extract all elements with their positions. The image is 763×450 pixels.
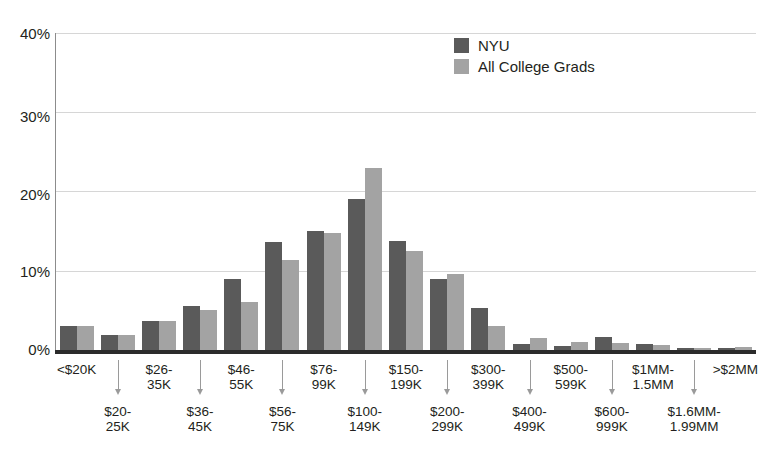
bar — [488, 326, 505, 350]
income-distribution-bar-chart: 40% 30% 20% 10% 0% NYU All College Grads… — [0, 0, 763, 450]
x-axis-labels: <$20K$20- 25K$26- 35K$36- 45K$46- 55K$56… — [56, 356, 756, 450]
x-axis-label: $100- 149K — [329, 404, 401, 434]
bar — [430, 279, 447, 350]
y-tick-20: 20% — [4, 187, 50, 202]
x-axis-line — [55, 350, 756, 354]
bar-group — [468, 33, 509, 350]
bar-group — [385, 33, 426, 350]
bar — [142, 321, 159, 350]
x-axis-label: $600- 999K — [576, 404, 648, 434]
x-axis-connector-arrow-icon — [282, 360, 283, 390]
bar — [307, 231, 324, 350]
x-axis-label: $26- 35K — [123, 362, 195, 392]
x-axis-label: $150- 199K — [370, 362, 442, 392]
x-axis-connector-arrow-icon — [365, 360, 366, 390]
bar — [554, 346, 571, 350]
x-axis-connector-arrow-icon — [447, 360, 448, 390]
bar — [241, 302, 258, 350]
bar-group — [180, 33, 221, 350]
bar — [101, 335, 118, 350]
bar-group — [591, 33, 632, 350]
bar — [735, 347, 752, 350]
bar-group — [303, 33, 344, 350]
x-axis-label: $1.6MM- 1.99MM — [658, 404, 730, 434]
legend-item-all-college-grads: All College Grads — [454, 59, 595, 74]
x-axis-label: >$2MM — [699, 362, 763, 377]
x-axis-connector-arrow-icon — [694, 360, 695, 390]
bar — [571, 342, 588, 350]
bar — [612, 343, 629, 350]
x-axis-label: $400- 499K — [494, 404, 566, 434]
x-axis-label: $500- 599K — [535, 362, 607, 392]
bar — [530, 338, 547, 350]
x-axis-label: $1MM- 1.5MM — [617, 362, 689, 392]
bar — [595, 337, 612, 350]
bar-group — [632, 33, 673, 350]
bar — [282, 260, 299, 350]
x-axis-label: <$20K — [41, 362, 113, 377]
x-axis-connector-arrow-icon — [612, 360, 613, 390]
bar — [265, 242, 282, 350]
bar — [60, 326, 77, 350]
bar — [447, 274, 464, 350]
bar-group — [550, 33, 591, 350]
bar — [118, 335, 135, 350]
bar-group — [674, 33, 715, 350]
bar — [718, 348, 735, 350]
bar — [389, 241, 406, 350]
bar-group — [138, 33, 179, 350]
y-tick-40: 40% — [4, 26, 50, 41]
bar-group — [715, 33, 756, 350]
bar-group — [221, 33, 262, 350]
bar — [77, 326, 94, 350]
y-tick-0: 0% — [4, 342, 50, 357]
bar — [224, 279, 241, 350]
bar — [653, 345, 670, 350]
x-axis-connector-arrow-icon — [530, 360, 531, 390]
bar — [365, 168, 382, 350]
x-axis-label: $56- 75K — [246, 404, 318, 434]
bar — [183, 306, 200, 350]
bar — [513, 344, 530, 350]
legend-label-nyu: NYU — [478, 38, 510, 53]
x-axis-connector-arrow-icon — [200, 360, 201, 390]
bar-group — [97, 33, 138, 350]
bar — [348, 199, 365, 350]
bar — [677, 348, 694, 350]
legend-swatch-nyu-icon — [454, 38, 469, 53]
chart-legend: NYU All College Grads — [454, 38, 595, 74]
bar — [694, 348, 711, 350]
bar — [636, 344, 653, 350]
y-tick-30: 30% — [4, 109, 50, 124]
bar-group — [56, 33, 97, 350]
x-axis-label: $36- 45K — [164, 404, 236, 434]
bar — [159, 321, 176, 350]
y-tick-10: 10% — [4, 264, 50, 279]
bar-group — [344, 33, 385, 350]
x-axis-label: $76- 99K — [288, 362, 360, 392]
legend-item-nyu: NYU — [454, 38, 595, 53]
bar-group — [262, 33, 303, 350]
legend-swatch-all-college-grads-icon — [454, 59, 469, 74]
bar — [324, 233, 341, 350]
y-axis-tick-labels: 40% 30% 20% 10% 0% — [0, 0, 50, 450]
bar — [471, 308, 488, 350]
bar-group — [427, 33, 468, 350]
plot-area — [56, 33, 756, 350]
bar-group — [509, 33, 550, 350]
x-axis-label: $200- 299K — [411, 404, 483, 434]
bar — [406, 251, 423, 350]
x-axis-label: $300- 399K — [452, 362, 524, 392]
bar — [200, 310, 217, 350]
x-axis-label: $46- 55K — [205, 362, 277, 392]
legend-label-all-college-grads: All College Grads — [478, 59, 595, 74]
x-axis-label: $20- 25K — [82, 404, 154, 434]
x-axis-connector-arrow-icon — [118, 360, 119, 390]
